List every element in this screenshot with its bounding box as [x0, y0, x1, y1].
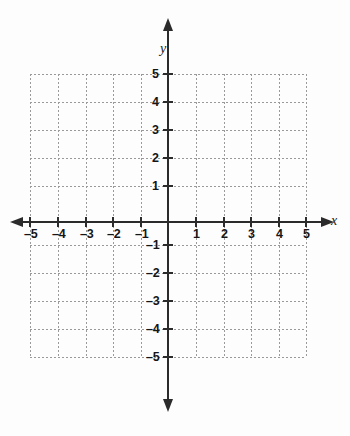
- y-tick-label-neg1: –1: [146, 239, 160, 252]
- y-axis-arrow-up: [163, 18, 173, 31]
- y-tick-label-neg2: –2: [146, 267, 160, 280]
- coordinate-plane: –5 –4 –3 –2 –1 1 2 3 4 5 5 4 3 2 1 –1 –2…: [0, 0, 350, 436]
- y-tick-label-4: 4: [152, 96, 159, 109]
- x-tick-label-neg3: –3: [80, 228, 94, 241]
- y-tick-label-3: 3: [152, 124, 159, 137]
- y-tick-label-1: 1: [152, 180, 159, 193]
- x-tick-label-4: 4: [276, 228, 283, 241]
- y-axis-arrow-down: [163, 399, 173, 412]
- x-tick-label-2: 2: [221, 228, 228, 241]
- x-tick-label-neg5: –5: [24, 228, 38, 241]
- x-tick-label-1: 1: [193, 228, 200, 241]
- y-axis: [163, 18, 173, 412]
- x-tick-label-5: 5: [303, 228, 310, 241]
- x-tick-label-3: 3: [248, 228, 255, 241]
- x-tick-label-neg2: –2: [107, 228, 121, 241]
- y-tick-label-neg3: –3: [146, 295, 160, 308]
- x-axis-label: x: [331, 214, 337, 228]
- y-tick-label-neg4: –4: [146, 323, 160, 336]
- coordinate-plane-canvas: [0, 0, 350, 436]
- x-tick-label-neg4: –4: [52, 228, 66, 241]
- x-axis-arrow-left: [10, 217, 23, 227]
- y-tick-label-5: 5: [152, 68, 159, 81]
- y-tick-label-neg5: –5: [146, 351, 160, 364]
- y-axis-label: y: [160, 42, 166, 56]
- y-tick-label-2: 2: [152, 152, 159, 165]
